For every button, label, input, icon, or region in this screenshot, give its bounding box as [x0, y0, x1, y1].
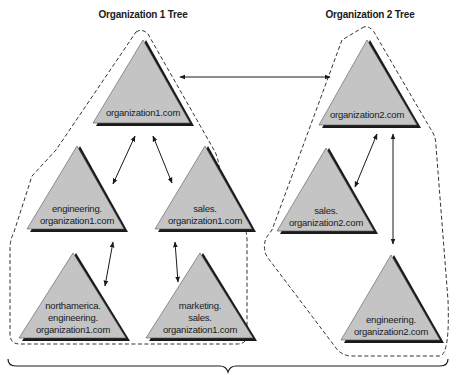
- trust-arrow-org1-sales: [153, 136, 172, 183]
- trust-arrow-org1-engineering: [113, 136, 135, 184]
- domain-label-marketing-org1: marketing. sales. organization1.com: [163, 300, 237, 336]
- org1-tree-title: Organization 1 Tree: [98, 9, 187, 20]
- org2-tree-title: Organization 2 Tree: [325, 9, 414, 20]
- trust-arrow-engineering-northamerica: [105, 242, 113, 286]
- trust-arrow-sales-marketing: [175, 242, 178, 282]
- forest-diagram: Organization 1 Tree Organization 2 Tree …: [0, 0, 456, 379]
- domain-label-northamerica-org1: northamerica. engineering. organization1…: [36, 300, 110, 336]
- domain-label-sales-org1: sales. organization1.com: [168, 203, 242, 227]
- forest-brace: [8, 359, 448, 372]
- trust-arrow-org2-sales: [355, 134, 377, 187]
- domain-label-engineering-org1: engineering. organization1.com: [40, 203, 114, 227]
- domain-label-organization2: organization2.com: [330, 109, 404, 121]
- domain-label-engineering-org2: engineering. organization2.com: [354, 314, 428, 338]
- domain-label-sales-org2: sales. organization2.com: [289, 205, 363, 229]
- domain-label-organization1: organization1.com: [106, 107, 180, 119]
